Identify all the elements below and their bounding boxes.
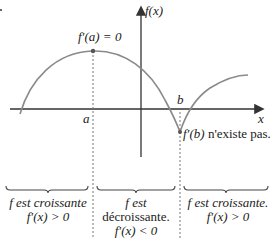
brace-interval-2 bbox=[97, 186, 175, 193]
interval-3-text: f est croissante. f′(x) > 0 bbox=[182, 196, 274, 224]
interval-2-text: f est décroissante. f′(x) < 0 bbox=[94, 196, 178, 238]
derivative-a-annotation: f′(a) = 0 bbox=[78, 30, 121, 44]
interval-3-line1: f est croissante. bbox=[182, 196, 274, 210]
derivative-b-annotation: f′(b) n'existe pas. bbox=[183, 127, 271, 141]
function-curve bbox=[20, 51, 248, 132]
cusp-point-b bbox=[178, 130, 182, 134]
interval-1-text: f est croissante f′(x) > 0 bbox=[4, 196, 92, 224]
derivative-b-text: n'existe pas. bbox=[205, 126, 271, 141]
corner-mark bbox=[0, 9, 2, 11]
point-a-label: a bbox=[83, 112, 90, 126]
interval-2-line3: f′(x) < 0 bbox=[94, 224, 178, 238]
max-point-a bbox=[91, 49, 95, 53]
interval-3-line2: f′(x) > 0 bbox=[182, 210, 274, 224]
brace-interval-1 bbox=[6, 186, 88, 193]
interval-2-line2: décroissante. bbox=[94, 210, 178, 224]
point-b-label: b bbox=[177, 93, 184, 107]
interval-2-line1: f est bbox=[94, 196, 178, 210]
derivative-b-math: f′(b) bbox=[183, 126, 205, 141]
interval-1-line2: f′(x) > 0 bbox=[4, 210, 92, 224]
x-axis-label: x bbox=[258, 112, 264, 126]
y-axis-label: f(x) bbox=[145, 4, 163, 18]
brace-interval-3 bbox=[184, 186, 268, 193]
interval-1-line1: f est croissante bbox=[4, 196, 92, 210]
